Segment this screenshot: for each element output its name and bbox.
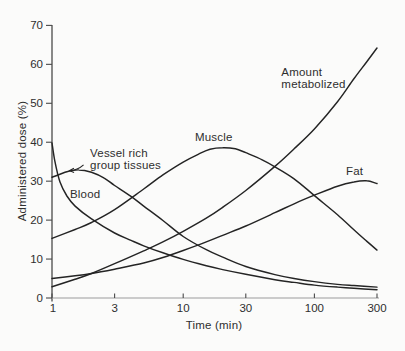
y-tick-label: 10 [30,253,43,265]
label-muscle: Muscle [195,131,233,143]
x-tick-label: 300 [367,302,386,314]
y-tick-label: 30 [30,175,43,187]
label-amount-metabolized: Amount [281,66,322,78]
label-fat: Fat [346,165,364,177]
x-tick-label: 3 [111,302,117,314]
x-tick-label: 10 [177,302,190,314]
y-tick-label: 70 [30,19,43,31]
y-tick-label: 20 [30,214,43,226]
label-vessel-rich-group: group tissues [90,159,161,171]
y-tick-label: 50 [30,97,43,109]
curve-fat [52,181,377,279]
x-tick-label: 30 [239,302,252,314]
pharmacokinetics-distribution-figure: 010203040506070131030100300Vessel richgr… [0,0,405,351]
y-tick-label: 0 [37,292,43,304]
y-tick-label: 60 [30,58,43,70]
x-axis-title: Time (min) [186,319,243,331]
y-axis-title: Administered dose (%) [16,101,28,222]
y-tick-label: 40 [30,136,43,148]
chart-canvas: 010203040506070131030100300Vessel richgr… [0,0,405,351]
label-blood: Blood [70,188,100,200]
label-vessel-rich-group: Vessel rich [90,147,148,159]
x-tick-label: 100 [305,302,324,314]
label-amount-metabolized: metabolized [281,78,345,90]
x-tick-label: 1 [50,302,56,314]
